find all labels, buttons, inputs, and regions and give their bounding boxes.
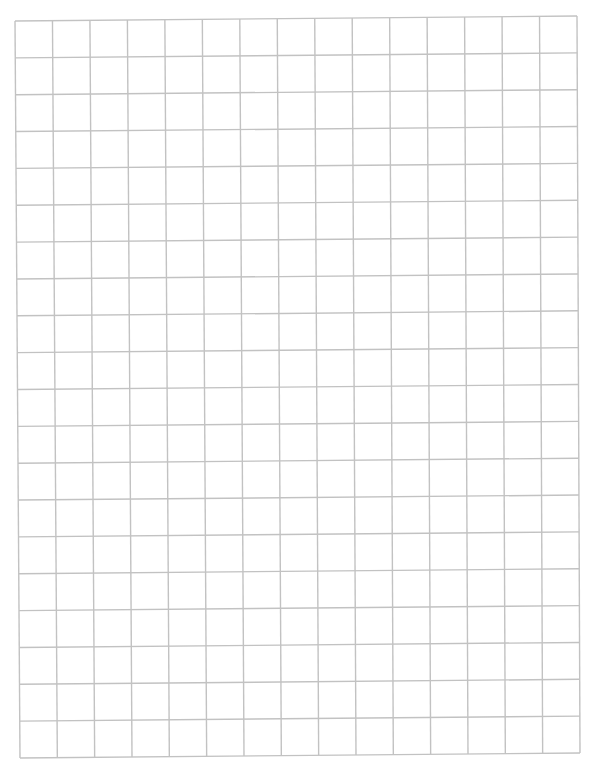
grid-horizontal-line — [16, 90, 578, 95]
grid — [0, 0, 592, 768]
grid-horizontal-line — [17, 311, 578, 316]
grid-horizontal-line — [18, 421, 579, 426]
grid-horizontal-line — [19, 569, 580, 574]
graph-paper-sheet — [0, 0, 592, 768]
grid-horizontal-line — [19, 606, 579, 611]
grid-horizontal-line — [15, 53, 577, 58]
grid-horizontal-line — [17, 274, 578, 279]
grid-horizontal-line — [15, 16, 577, 21]
grid-horizontal-line — [16, 163, 578, 168]
grid-horizontal-line — [20, 679, 580, 684]
grid-horizontal-line — [18, 495, 579, 500]
grid-horizontal-line — [18, 385, 579, 390]
grid-horizontal-line — [18, 458, 579, 463]
grid-horizontal-line — [16, 200, 578, 205]
grid-horizontal-line — [19, 532, 580, 537]
grid-horizontal-line — [16, 127, 578, 132]
grid-horizontal-line — [20, 753, 580, 758]
grid-horizontal-line — [20, 716, 580, 721]
grid-horizontal-line — [17, 348, 578, 353]
grid-horizontal-line — [17, 237, 578, 242]
grid-horizontal-line — [19, 642, 579, 647]
